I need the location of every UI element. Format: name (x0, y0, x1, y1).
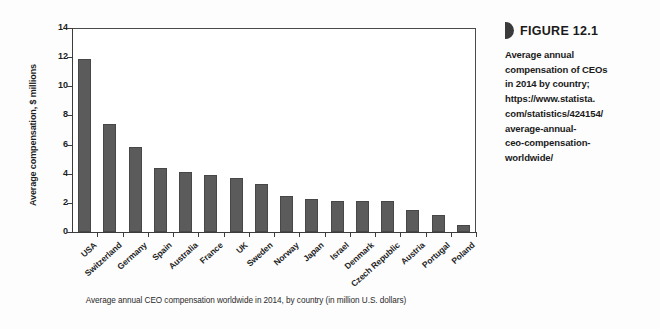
bar (381, 201, 394, 232)
y-tick-label: 2 (48, 198, 68, 207)
x-tick-mark (97, 232, 98, 237)
bar (406, 210, 419, 232)
bar (331, 201, 344, 232)
y-axis-title: Average compensation, $ millions (28, 40, 38, 230)
figure-description-line: ceo-compensation- (505, 136, 645, 151)
y-tick-mark (67, 232, 72, 233)
figure-description: Average annualcompensation of CEOsin 201… (505, 48, 645, 166)
figure-description-line: com/statistics/424154/ (505, 107, 645, 122)
y-tick-label: 14 (48, 23, 68, 32)
figure-heading: FIGURE 12.1 (505, 22, 645, 39)
figure-description-line: Average annual (505, 48, 645, 63)
figure-description-line: average-annual- (505, 122, 645, 137)
bar (179, 172, 192, 232)
bar (432, 215, 445, 232)
x-tick-label: France (198, 240, 225, 266)
x-tick-label: Poland (450, 240, 477, 266)
bar-series (72, 28, 476, 232)
y-tick-label: 8 (48, 110, 68, 119)
x-tick-mark (173, 232, 174, 237)
x-tick-mark (123, 232, 124, 237)
y-tick-label: 6 (48, 140, 68, 149)
figure-sidebar: FIGURE 12.1 Average annualcompensation o… (505, 22, 645, 166)
y-tick-label: 10 (48, 81, 68, 90)
figure-description-line: compensation of CEOs (505, 63, 645, 78)
bar (305, 199, 318, 232)
bar (255, 184, 268, 232)
y-tick-label: 0 (48, 227, 68, 236)
bar (280, 196, 293, 232)
x-tick-label: Japan (301, 240, 326, 264)
x-tick-mark (476, 232, 477, 237)
x-tick-mark (375, 232, 376, 237)
x-tick-mark (325, 232, 326, 237)
figure-chart-area: Average compensation, $ millions 0246810… (0, 0, 492, 329)
figure-description-line: https://www.statista. (505, 92, 645, 107)
x-tick-mark (451, 232, 452, 237)
bar (154, 168, 167, 232)
bar (103, 124, 116, 232)
figure-description-line: in 2014 by country; (505, 77, 645, 92)
x-tick-label: Norway (271, 240, 300, 268)
figure-description-line: worldwide/ (505, 151, 645, 166)
figure-number: FIGURE 12.1 (520, 24, 598, 38)
bar (457, 225, 470, 232)
bar (356, 201, 369, 232)
x-tick-label: USA (79, 240, 99, 259)
x-tick-mark (400, 232, 401, 237)
x-tick-label: Sweden (245, 240, 275, 269)
x-tick-mark (350, 232, 351, 237)
x-tick-mark (249, 232, 250, 237)
x-tick-mark (198, 232, 199, 237)
bar (204, 175, 217, 232)
bar (129, 147, 142, 232)
x-tick-mark (148, 232, 149, 237)
x-tick-mark (299, 232, 300, 237)
y-tick-label: 4 (48, 169, 68, 178)
x-tick-label: UK (234, 240, 250, 256)
page-sheet: Average compensation, $ millions 0246810… (0, 0, 660, 329)
x-tick-mark (426, 232, 427, 237)
bar (78, 59, 91, 232)
chart-caption: Average annual CEO compensation worldwid… (18, 296, 474, 305)
half-disc-marker-icon (505, 22, 514, 39)
x-tick-mark (224, 232, 225, 237)
x-tick-mark (274, 232, 275, 237)
y-tick-label: 12 (48, 52, 68, 61)
bar (230, 178, 243, 232)
